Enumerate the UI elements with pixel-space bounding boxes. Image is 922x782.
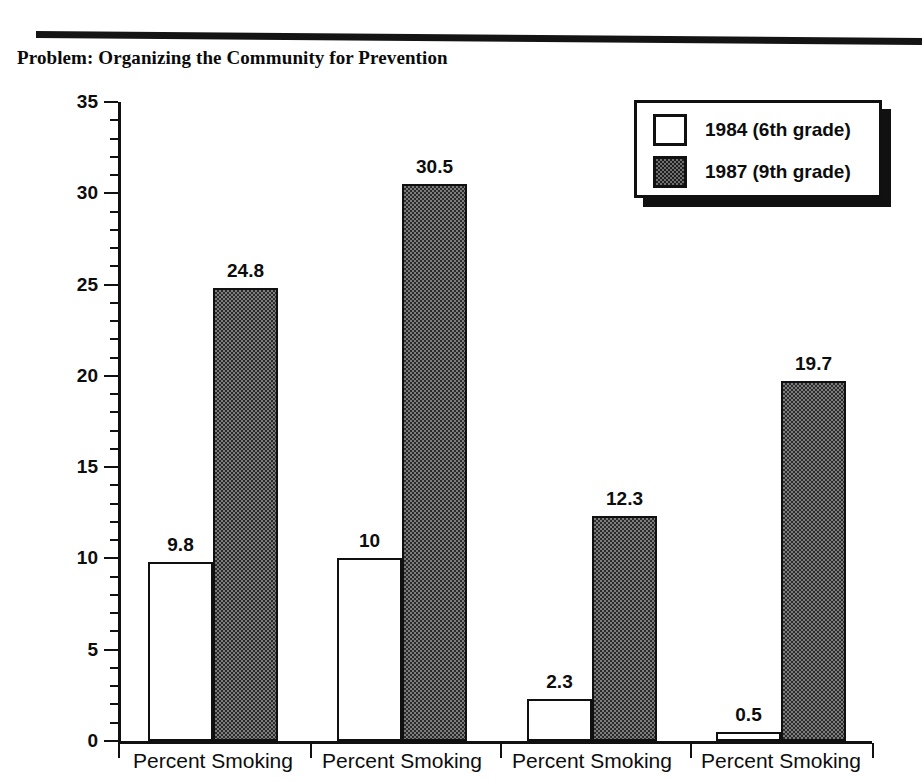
legend-box: 1984 (6th grade) 1987 (9th grade) (634, 100, 882, 198)
legend-entry-1984: 1984 (6th grade) (653, 113, 851, 147)
legend-label-1987: 1987 (9th grade) (705, 161, 851, 183)
bar-value-label: 0.5 (702, 704, 795, 726)
chart-plot-area: 35302520151050 9.824.81030.52.312.30.519… (0, 0, 922, 782)
category-label: Percent Smoking (295, 748, 509, 773)
category-label: Percent Smoking (106, 748, 320, 773)
category-label: Percent Smoking (674, 748, 888, 773)
bar-1987 (781, 381, 846, 741)
bar-value-label: 10 (323, 530, 416, 552)
bar-1987 (592, 516, 657, 741)
bar-1984 (527, 699, 592, 741)
category-label: Percent Smoking (485, 748, 699, 773)
x-axis-line (118, 741, 872, 744)
legend-entry-1987: 1987 (9th grade) (653, 155, 851, 189)
bar-value-label: 12.3 (578, 488, 671, 510)
legend-swatch-icon-light (653, 114, 687, 146)
bar-value-label: 30.5 (388, 156, 481, 178)
legend-label-1984: 1984 (6th grade) (705, 119, 851, 141)
bar-1984 (148, 562, 213, 741)
bar-1987 (402, 184, 467, 741)
bar-1987 (213, 288, 278, 741)
bar-1984 (337, 558, 402, 741)
legend-swatch-icon-dark (653, 156, 687, 188)
bar-value-label: 19.7 (767, 353, 860, 375)
bar-value-label: 24.8 (199, 260, 292, 282)
bar-1984 (716, 732, 781, 741)
bar-value-label: 2.3 (513, 671, 606, 693)
chart-legend: 1984 (6th grade) 1987 (9th grade) (634, 100, 882, 198)
chart-page: Problem: Organizing the Community for Pr… (0, 0, 922, 782)
bar-value-label: 9.8 (134, 534, 227, 556)
